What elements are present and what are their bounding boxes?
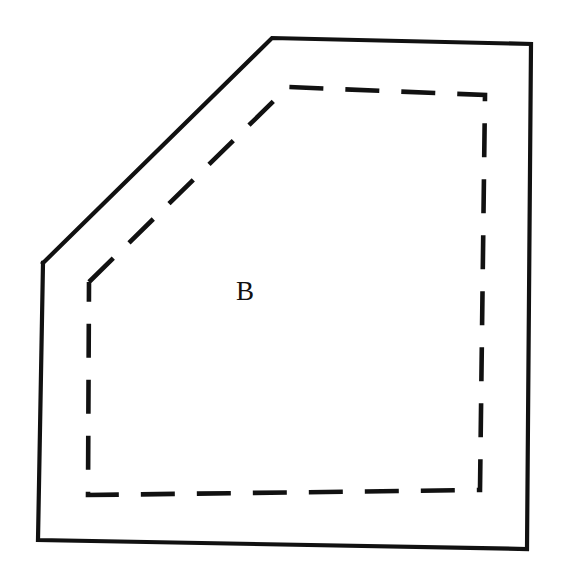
region-label-b: B <box>236 276 254 306</box>
figure-b-line-drawing: B <box>0 0 562 572</box>
diagram-canvas: B <box>0 0 562 572</box>
figure-background <box>0 0 562 572</box>
